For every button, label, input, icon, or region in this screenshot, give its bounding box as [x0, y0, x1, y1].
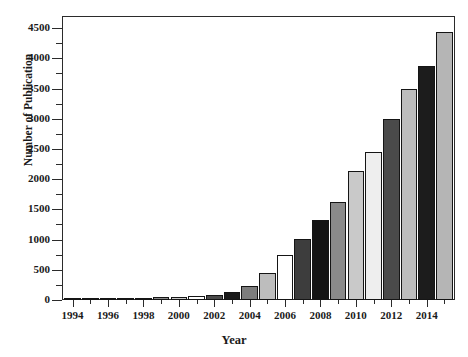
y-tick-label: 4500 [0, 21, 50, 33]
x-tick-label: 2008 [300, 309, 340, 321]
bar-2013 [401, 89, 418, 300]
y-tick [52, 240, 62, 241]
y-tick [52, 89, 62, 90]
x-tick [108, 300, 109, 307]
bar-1995 [82, 298, 99, 300]
x-tick-label: 1994 [53, 309, 93, 321]
y-tick-label: 0 [0, 293, 50, 305]
bar-2002 [206, 295, 223, 300]
y-tick [52, 179, 62, 180]
x-tick-label: 2014 [407, 309, 447, 321]
y-tick-label: 4000 [0, 51, 50, 63]
x-axis-title: Year [0, 333, 468, 348]
bar-2015 [436, 32, 453, 300]
x-minor-tick [232, 300, 233, 304]
x-tick-label: 2000 [159, 309, 199, 321]
bar-2004 [241, 286, 258, 301]
bar-2007 [294, 239, 311, 300]
x-tick [427, 300, 428, 307]
y-minor-tick [56, 104, 62, 105]
x-tick-label: 2010 [336, 309, 376, 321]
bar-2011 [365, 152, 382, 300]
x-tick [320, 300, 321, 307]
y-tick [52, 28, 62, 29]
y-tick [52, 119, 62, 120]
y-minor-tick [56, 43, 62, 44]
x-tick [250, 300, 251, 307]
y-tick-label: 1500 [0, 202, 50, 214]
x-minor-tick [267, 300, 268, 304]
x-minor-tick [409, 300, 410, 304]
y-minor-tick [56, 255, 62, 256]
x-minor-tick [374, 300, 375, 304]
y-tick-label: 2500 [0, 142, 50, 154]
x-minor-tick [90, 300, 91, 304]
x-minor-tick [303, 300, 304, 304]
bar-2010 [348, 171, 365, 300]
x-tick [179, 300, 180, 307]
y-minor-tick [56, 164, 62, 165]
bar-1997 [117, 298, 134, 300]
y-tick [52, 58, 62, 59]
publication-bar-chart: Number of Publication 050010001500200025… [0, 0, 468, 357]
bars-layer [63, 17, 453, 300]
x-tick-label: 1996 [88, 309, 128, 321]
y-tick [52, 270, 62, 271]
bar-1998 [135, 298, 152, 300]
bar-2006 [277, 255, 294, 300]
x-tick [285, 300, 286, 307]
x-tick-label: 2004 [230, 309, 270, 321]
x-tick [214, 300, 215, 307]
bar-1999 [153, 297, 170, 300]
x-tick [73, 300, 74, 307]
x-minor-tick [197, 300, 198, 304]
bar-2000 [171, 297, 188, 300]
bar-2008 [312, 220, 329, 300]
y-tick-label: 3500 [0, 82, 50, 94]
y-minor-tick [56, 134, 62, 135]
bar-2005 [259, 273, 276, 300]
bar-2014 [418, 66, 435, 300]
x-minor-tick [338, 300, 339, 304]
y-minor-tick [56, 194, 62, 195]
bar-1994 [64, 298, 81, 300]
x-tick-label: 2002 [194, 309, 234, 321]
x-minor-tick [126, 300, 127, 304]
bar-2003 [224, 292, 241, 300]
bar-2012 [383, 119, 400, 300]
x-tick [391, 300, 392, 307]
x-tick [143, 300, 144, 307]
bar-2001 [188, 296, 205, 300]
x-minor-tick [161, 300, 162, 304]
y-tick-label: 3000 [0, 112, 50, 124]
y-tick [52, 209, 62, 210]
y-tick-label: 500 [0, 263, 50, 275]
x-tick-label: 2012 [371, 309, 411, 321]
y-tick [52, 149, 62, 150]
y-minor-tick [56, 224, 62, 225]
x-tick-label: 2006 [265, 309, 305, 321]
x-tick-label: 1998 [123, 309, 163, 321]
bar-2009 [330, 202, 347, 300]
y-tick-label: 2000 [0, 172, 50, 184]
y-tick-label: 1000 [0, 233, 50, 245]
x-minor-tick [444, 300, 445, 304]
y-minor-tick [56, 73, 62, 74]
y-minor-tick [56, 285, 62, 286]
y-tick [52, 300, 62, 301]
bar-1996 [100, 298, 117, 300]
x-tick [356, 300, 357, 307]
